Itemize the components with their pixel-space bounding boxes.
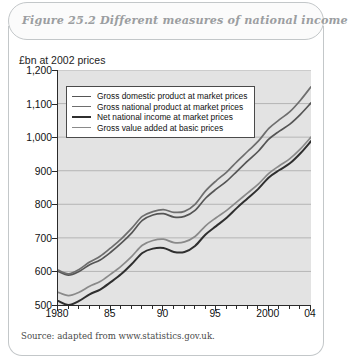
legend-swatch-icon [72, 116, 91, 118]
legend-item: Net national income at market prices [72, 112, 247, 123]
legend-item: Gross domestic product at market prices [72, 91, 247, 102]
legend-item: Gross national product at market prices [72, 102, 247, 113]
x-tick-label: 2000 [256, 308, 279, 319]
legend-label: Gross domestic product at market prices [97, 91, 247, 102]
legend-swatch-icon [72, 106, 91, 107]
page-title: Figure 25.2 Different measures of nation… [22, 13, 348, 27]
x-tick-label: 95 [209, 308, 220, 319]
x-tick-label: 85 [104, 308, 115, 319]
x-tick-label: 1980 [46, 308, 69, 319]
source-note: Source: adapted from www.statistics.gov.… [21, 331, 215, 341]
x-tick-label: 90 [157, 308, 168, 319]
legend-swatch-icon [72, 96, 91, 97]
legend-swatch-icon [72, 127, 91, 128]
x-tick-label: 04 [304, 308, 315, 319]
x-axis-tick-labels: 1980859095200004 [57, 308, 310, 324]
y-axis-tick-marks [0, 70, 60, 305]
legend-label: Gross national product at market prices [97, 102, 243, 113]
legend-item: Gross value added at basic prices [72, 123, 247, 134]
legend-label: Net national income at market prices [97, 112, 233, 123]
chart-series-line [58, 141, 311, 305]
chart-legend: Gross domestic product at market pricesG… [66, 86, 255, 138]
legend-label: Gross value added at basic prices [97, 123, 223, 134]
